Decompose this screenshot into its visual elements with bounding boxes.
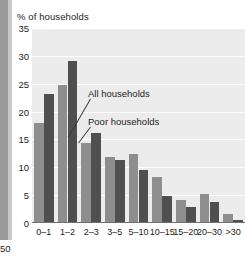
y-axis-tick-label: 35: [0, 23, 29, 34]
neighbour-axis-tick-label: 50: [0, 243, 11, 254]
x-axis-tick-label: 2–3: [84, 227, 99, 237]
y-axis-tick-label: 5: [0, 190, 29, 201]
bar: [81, 143, 91, 223]
bar: [34, 123, 44, 223]
bar: [139, 170, 149, 223]
bar: [162, 196, 172, 223]
bar: [44, 94, 54, 223]
bar: [210, 202, 220, 223]
bar: [176, 200, 186, 223]
bar: [152, 177, 162, 223]
x-axis-tick-label: 10–15: [150, 227, 175, 237]
y-axis-tick-label: 20: [0, 106, 29, 117]
x-axis-tick-label: 20–30: [197, 227, 222, 237]
bar: [186, 207, 196, 223]
x-axis-tick-label: >30: [226, 227, 241, 237]
x-axis-tick-label: 1–2: [60, 227, 75, 237]
bar: [105, 157, 115, 223]
bar: [58, 85, 68, 223]
chart-container: % of households 05101520253035 0–11–22–3…: [0, 0, 245, 257]
y-axis-ticks: 05101520253035: [0, 0, 29, 257]
x-axis-tick-label: 3–5: [107, 227, 122, 237]
gridline: [32, 28, 245, 29]
x-axis-tick-label: 15–20: [173, 227, 198, 237]
y-axis-tick-label: 0: [0, 218, 29, 229]
y-axis-tick-label: 25: [0, 78, 29, 89]
y-axis-tick-label: 30: [0, 50, 29, 61]
bar: [200, 194, 210, 223]
bar: [91, 133, 101, 223]
bar: [68, 61, 78, 223]
y-axis-tick-label: 10: [0, 162, 29, 173]
x-axis-tick-label: 0–1: [36, 227, 51, 237]
chart-annotation-label: All households: [88, 88, 150, 99]
bar: [115, 160, 125, 223]
gridline: [32, 56, 245, 57]
chart-annotation-label: Poor households: [88, 116, 159, 127]
bar: [129, 154, 139, 223]
y-axis-tick-label: 15: [0, 134, 29, 145]
x-axis-line: [32, 222, 245, 223]
x-axis-tick-label: 5–10: [128, 227, 148, 237]
